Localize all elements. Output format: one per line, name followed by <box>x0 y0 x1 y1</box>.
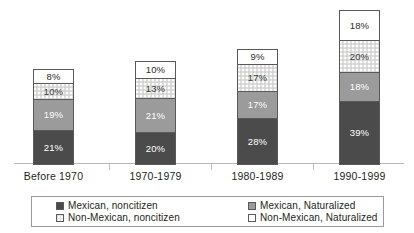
legend-item-label: Mexican, noncitizen <box>68 200 158 212</box>
legend-swatch-icon <box>248 202 256 210</box>
bar-column[interactable]: 18% 20% 18% 39% <box>339 1 380 164</box>
bar-segment-mexican-naturalized[interactable]: 17% <box>237 91 278 119</box>
bar-segment-mexican-noncitizen[interactable]: 39% <box>339 101 380 165</box>
bar-segment-mexican-noncitizen[interactable]: 20% <box>135 132 176 165</box>
bar-segment-nonmexican-noncitizen[interactable]: 17% <box>237 64 278 92</box>
legend-item-nonmexican-naturalized[interactable]: Non-Mexican, Naturalized <box>248 212 383 224</box>
bar-segment-label: 20% <box>146 144 165 154</box>
bar-segment-label: 9% <box>251 52 265 62</box>
bar-segment-mexican-naturalized[interactable]: 21% <box>135 98 176 133</box>
bar-segment-label: 19% <box>44 110 63 120</box>
axis-tick <box>109 164 110 170</box>
stacked-bar-chart: 8% 10% 19% 21% 10% 13% 21% 20% <box>0 0 414 233</box>
legend-item-mexican-naturalized[interactable]: Mexican, Naturalized <box>248 200 383 212</box>
bar-segment-label: 10% <box>44 87 63 97</box>
legend-swatch-icon <box>248 214 256 222</box>
bar-segment-label: 18% <box>350 82 369 92</box>
legend-item-label: Non-Mexican, noncitizen <box>68 212 180 224</box>
legend-item-label: Mexican, Naturalized <box>260 200 355 212</box>
x-axis-label-1990-1999: 1990-1999 <box>319 170 400 182</box>
bar-segment-label: 17% <box>248 73 267 83</box>
x-axis-label-1970-1979: 1970-1979 <box>115 170 196 182</box>
bar-column[interactable]: 10% 13% 21% 20% <box>135 1 176 164</box>
bar-segment-label: 17% <box>248 100 267 110</box>
legend-swatch-icon <box>56 214 64 222</box>
bar-segment-mexican-naturalized[interactable]: 18% <box>339 72 380 102</box>
bar-segment-label: 8% <box>47 72 61 82</box>
bar-segment-label: 20% <box>350 52 369 62</box>
bar-segment-mexican-noncitizen[interactable]: 21% <box>33 130 74 165</box>
bar-segment-label: 39% <box>350 128 369 138</box>
legend-item-mexican-noncitizen[interactable]: Mexican, noncitizen <box>56 200 248 212</box>
bar-segment-label: 18% <box>350 21 369 31</box>
x-axis-label-1980-1989: 1980-1989 <box>217 170 298 182</box>
bar-column[interactable]: 8% 10% 19% 21% <box>33 1 74 164</box>
bar-segment-label: 21% <box>44 143 63 153</box>
bar-segment-nonmexican-noncitizen[interactable]: 20% <box>339 40 380 73</box>
bar-segment-label: 13% <box>146 84 165 94</box>
bar-segment-label: 28% <box>248 137 267 147</box>
chart-legend: Mexican, noncitizen Mexican, Naturalized… <box>31 196 384 227</box>
bar-segment-label: 21% <box>146 111 165 121</box>
legend-item-nonmexican-noncitizen[interactable]: Non-Mexican, noncitizen <box>56 212 248 224</box>
bar-segment-nonmexican-naturalized[interactable]: 8% <box>33 69 74 84</box>
x-axis-label-before-1970: Before 1970 <box>13 170 94 182</box>
legend-item-label: Non-Mexican, Naturalized <box>260 212 377 224</box>
legend-grid: Mexican, noncitizen Mexican, Naturalized… <box>32 197 383 226</box>
plot-area: 8% 10% 19% 21% 10% 13% 21% 20% <box>0 0 414 164</box>
bar-segment-mexican-noncitizen[interactable]: 28% <box>237 118 278 165</box>
bar-segment-nonmexican-naturalized[interactable]: 10% <box>135 61 176 79</box>
axis-tick <box>313 164 314 170</box>
bar-segment-nonmexican-naturalized[interactable]: 9% <box>237 49 278 65</box>
bar-segment-nonmexican-naturalized[interactable]: 18% <box>339 10 380 41</box>
bar-segment-nonmexican-noncitizen[interactable]: 10% <box>33 83 74 100</box>
bar-column[interactable]: 9% 17% 17% 28% <box>237 1 278 164</box>
bar-segment-nonmexican-noncitizen[interactable]: 13% <box>135 78 176 99</box>
bar-segment-label: 10% <box>146 65 165 75</box>
legend-swatch-icon <box>56 202 64 210</box>
bar-segment-mexican-naturalized[interactable]: 19% <box>33 99 74 131</box>
axis-tick <box>211 164 212 170</box>
